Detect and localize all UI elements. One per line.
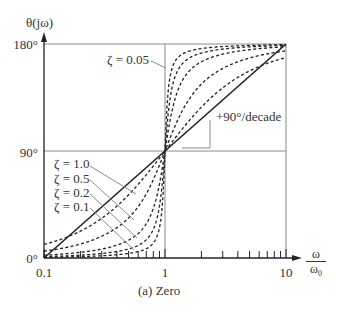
zeta-0.2-label: ζ = 0.2 <box>54 186 89 199</box>
x-axis-label-numerator: ω <box>306 248 326 262</box>
leader-zeta-0.05 <box>151 61 166 68</box>
x-axis-label: ω ω0 <box>306 248 326 278</box>
x-tick-10: 10 <box>274 266 298 279</box>
zeta-0.05-label: ζ = 0.05 <box>107 53 149 66</box>
x-tick-0.1: 0.1 <box>32 266 56 279</box>
bode-phase-chart: θ(jω) 180° 90° 0° 0.1 1 10 ω ω0 (a) Zero… <box>0 0 340 315</box>
y-tick-90: 90° <box>8 146 38 159</box>
x-axis-label-denominator: ω0 <box>306 262 326 278</box>
y-axis-arrow-icon <box>41 32 47 42</box>
x-axis-arrow-icon <box>292 255 302 261</box>
slope-annotation: +90°/decade <box>216 110 281 123</box>
chart-caption: (a) Zero <box>138 284 180 297</box>
x-tick-1: 1 <box>153 266 177 279</box>
zeta-0.5-label: ζ = 0.5 <box>54 172 89 185</box>
zeta-1.0-label: ζ = 1.0 <box>54 157 89 170</box>
leader-zeta-1.0 <box>90 166 136 194</box>
y-tick-0: 0° <box>8 252 38 265</box>
y-axis-label: θ(jω) <box>26 16 53 29</box>
y-tick-180: 180° <box>8 38 38 51</box>
zeta-0.1-label: ζ = 0.1 <box>54 200 89 213</box>
